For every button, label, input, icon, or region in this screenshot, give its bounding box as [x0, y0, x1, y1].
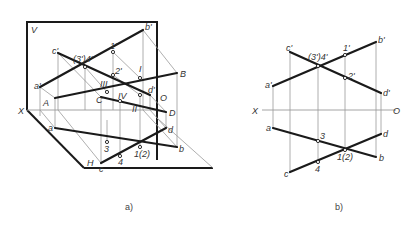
label-a-prime: a'	[34, 81, 41, 91]
label-X: X	[17, 106, 25, 116]
label-12: 1(2)	[134, 149, 150, 159]
label-D: D	[169, 108, 176, 118]
label-c-prime: c'	[52, 46, 59, 56]
top-line-cd	[290, 134, 381, 172]
label-I: I	[139, 64, 142, 74]
label-c: c	[284, 169, 289, 179]
label-3: 3	[320, 131, 325, 141]
point-1p	[343, 53, 346, 56]
label-O: O	[160, 93, 167, 103]
label-a: a	[48, 123, 53, 133]
label-b: b	[179, 144, 184, 154]
caption-a: a)	[125, 202, 133, 212]
label-III: III	[100, 79, 108, 89]
oblique-projector	[143, 30, 177, 73]
projection-diagram: V H X A B C D III I IV II O a' b' c' d' …	[0, 0, 413, 227]
label-3p4p: (3')4'	[308, 52, 328, 62]
label-b-prime: b'	[378, 35, 385, 45]
label-2p: 2'	[347, 71, 355, 81]
label-4: 4	[118, 157, 123, 167]
label-3: 3	[104, 144, 109, 154]
label-B: B	[180, 69, 186, 79]
label-1p: 1'	[110, 41, 117, 51]
label-3p4p: (3')4'	[73, 54, 93, 64]
label-O: O	[393, 106, 400, 116]
label-a: a	[266, 123, 271, 133]
oblique-projector	[40, 87, 55, 98]
label-H: H	[87, 158, 94, 168]
label-2p: 2'	[114, 66, 122, 76]
label-V: V	[31, 25, 38, 35]
point-II	[138, 93, 141, 96]
label-4: 4	[315, 164, 320, 174]
label-C: C	[96, 95, 103, 105]
point-I	[138, 76, 141, 79]
figure-a: V H X A B C D III I IV II O a' b' c' d' …	[17, 22, 213, 212]
label-IV: IV	[118, 91, 128, 101]
caption-b: b)	[335, 202, 343, 212]
point-3p4p	[316, 64, 319, 67]
label-II: II	[132, 104, 138, 114]
label-c: c	[99, 164, 104, 174]
point-3p4p	[83, 65, 86, 68]
label-d-prime: d'	[383, 88, 390, 98]
h-plane-right-edge	[157, 118, 213, 168]
label-b: b	[379, 153, 384, 163]
label-A: A	[42, 98, 49, 108]
label-d: d	[383, 129, 389, 139]
point-2p	[343, 76, 346, 79]
label-1p: 1'	[343, 43, 350, 53]
oblique-projector	[58, 110, 101, 163]
point-III	[105, 90, 108, 93]
label-d: d	[168, 125, 174, 135]
label-12: 1(2)	[337, 152, 353, 162]
label-d-prime: d'	[148, 85, 155, 95]
label-X: X	[251, 106, 259, 116]
figure-b: X O a' b' c' d' (3')4' 1' 2' a b c d 3 4…	[251, 35, 400, 212]
label-c-prime: c'	[286, 43, 293, 53]
label-b-prime: b'	[145, 22, 152, 32]
h-plane-left-edge	[27, 110, 84, 168]
label-a-prime: a'	[265, 80, 272, 90]
